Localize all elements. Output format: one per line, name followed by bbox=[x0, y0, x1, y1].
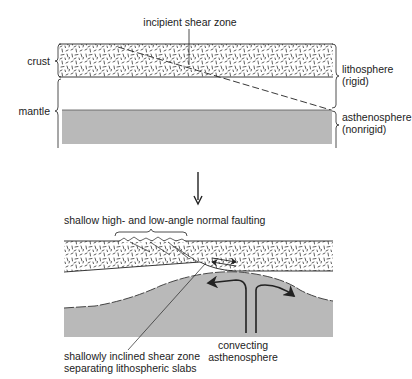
lithosphere-label: lithosphere bbox=[342, 63, 394, 75]
top-panel: incipient shear zone crust mantle lithos… bbox=[18, 16, 411, 148]
asthenosphere-note: (nonrigid) bbox=[342, 123, 386, 135]
lithospheric-slab bbox=[64, 241, 333, 272]
convecting-label-line2: asthenosphere bbox=[208, 351, 278, 363]
lithosphere-brace bbox=[332, 44, 339, 108]
normal-faulting-label: shallow high- and low-angle normal fault… bbox=[64, 214, 266, 226]
crust-label: crust bbox=[27, 55, 50, 67]
asthenosphere-brace bbox=[332, 111, 339, 148]
crust-layer bbox=[59, 44, 333, 77]
bottom-panel: shallow high- and low-angle normal fault… bbox=[64, 214, 333, 374]
normal-fault-blocks bbox=[118, 237, 187, 242]
shear-zone-label-line1: shallowly inclined shear zone bbox=[64, 350, 200, 362]
faulting-brace bbox=[115, 229, 187, 236]
incipient-shear-zone-label: incipient shear zone bbox=[143, 16, 237, 28]
rift-diagram: incipient shear zone crust mantle lithos… bbox=[0, 0, 412, 379]
convecting-label-line1: convecting bbox=[218, 339, 268, 351]
mantle-label: mantle bbox=[18, 105, 50, 117]
mantle-brace bbox=[55, 79, 61, 148]
down-arrow-icon bbox=[194, 172, 202, 204]
shear-zone-label-line2: separating lithospheric slabs bbox=[64, 362, 197, 374]
asthenosphere-label: asthenosphere bbox=[342, 111, 412, 123]
lithosphere-note: (rigid) bbox=[342, 75, 369, 87]
asthenosphere-layer bbox=[62, 110, 332, 144]
